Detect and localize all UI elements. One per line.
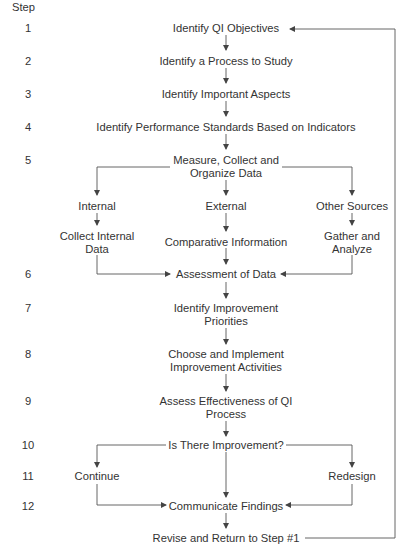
node-assessment-of-data: Assessment of Data <box>176 268 276 281</box>
node-gather-analyze: Gather and Analyze <box>324 230 380 255</box>
decision-is-there-improvement: Is There Improvement? <box>168 439 283 452</box>
step-number: 2 <box>25 55 31 67</box>
step-number: 7 <box>25 302 31 314</box>
node-choose-implement: Choose and Implement Improvement Activit… <box>168 348 284 373</box>
step-number: 5 <box>25 154 31 166</box>
node-line: Process <box>160 408 293 421</box>
node-assess-effectiveness: Assess Effectiveness of QI Process <box>160 395 293 420</box>
step-number: 8 <box>25 348 31 360</box>
node-line: Identify Improvement <box>174 302 278 315</box>
node-line: Data <box>60 243 135 256</box>
node-identify-improvement-priorities: Identify Improvement Priorities <box>174 302 278 327</box>
step-number: 3 <box>25 88 31 100</box>
node-identify-performance-standards: Identify Performance Standards Based on … <box>96 121 355 134</box>
step-number: 12 <box>22 500 34 512</box>
node-revise-return: Revise and Return to Step #1 <box>153 532 300 545</box>
node-continue: Continue <box>75 470 120 483</box>
node-collect-internal-data: Collect Internal Data <box>60 230 135 255</box>
step-number: 9 <box>25 395 31 407</box>
node-line: Choose and Implement <box>168 348 284 361</box>
node-identify-qi-objectives: Identify QI Objectives <box>173 22 279 35</box>
node-line: Priorities <box>174 315 278 328</box>
step-column-header: Step <box>12 1 35 14</box>
branch-internal: Internal <box>78 200 115 213</box>
node-line: Collect Internal <box>60 230 135 243</box>
step-number: 4 <box>25 121 31 133</box>
node-identify-important-aspects: Identify Important Aspects <box>162 88 291 101</box>
node-line: Organize Data <box>173 167 279 180</box>
step-number: 11 <box>22 470 34 482</box>
node-redesign: Redesign <box>328 470 375 483</box>
step-number: 6 <box>25 268 31 280</box>
node-line: Gather and <box>324 230 380 243</box>
node-communicate-findings: Communicate Findings <box>169 500 283 513</box>
node-identify-process: Identify a Process to Study <box>159 55 292 68</box>
step-number: 10 <box>22 439 34 451</box>
node-measure-collect-organize: Measure, Collect and Organize Data <box>173 154 279 179</box>
step-number: 1 <box>25 22 31 34</box>
node-line: Measure, Collect and <box>173 154 279 167</box>
node-line: Improvement Activities <box>168 361 284 374</box>
branch-other-sources: Other Sources <box>316 200 388 213</box>
node-comparative-information: Comparative Information <box>165 236 288 249</box>
node-line: Analyze <box>324 243 380 256</box>
node-line: Assess Effectiveness of QI <box>160 395 293 408</box>
branch-external: External <box>205 200 246 213</box>
